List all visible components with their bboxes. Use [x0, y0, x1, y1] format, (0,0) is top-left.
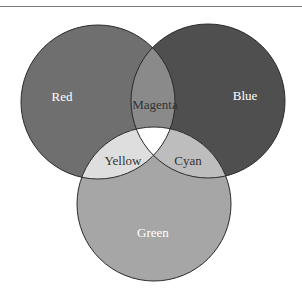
label-red: Red	[52, 89, 73, 104]
label-magenta: Magenta	[132, 97, 178, 112]
label-cyan: Cyan	[174, 153, 202, 168]
label-green: Green	[137, 225, 169, 240]
label-yellow: Yellow	[105, 153, 143, 168]
venn-diagram: Red Blue Magenta Yellow Cyan Green	[0, 0, 302, 294]
label-blue: Blue	[233, 88, 258, 103]
